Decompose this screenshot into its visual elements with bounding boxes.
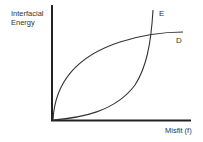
curve-e-label: E <box>159 9 164 18</box>
curve-d <box>53 32 183 120</box>
x-axis-label: Misfit (f) <box>165 126 192 135</box>
plot-area <box>0 0 203 142</box>
curve-e <box>53 10 153 120</box>
curve-d-label: D <box>176 36 182 45</box>
